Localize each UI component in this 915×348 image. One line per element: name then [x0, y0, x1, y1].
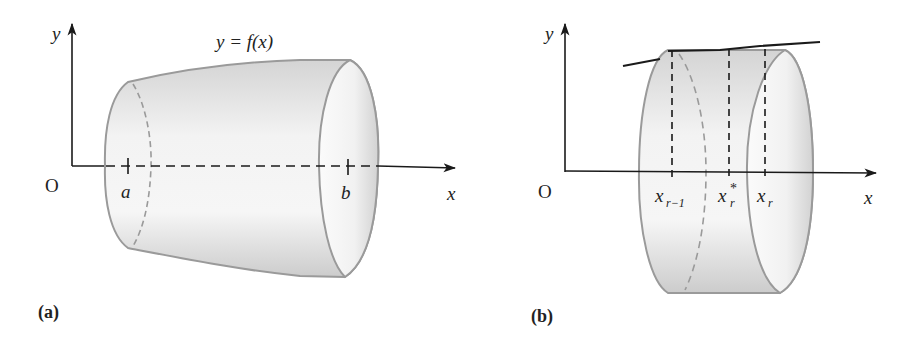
- svg-text:*: *: [730, 181, 737, 196]
- caption-a: (a): [38, 302, 59, 323]
- y-axis-label-a: y: [50, 23, 61, 44]
- caption-b: (b): [531, 306, 553, 327]
- panel-a: y y = f(x) O a b x (a): [38, 23, 456, 323]
- panel-b: y O x x r−1 x * r x r (b): [531, 23, 876, 327]
- x-axis-a-right: [378, 166, 455, 168]
- x-axis-label-a: x: [446, 183, 456, 204]
- y-axis-label-b: y: [543, 23, 554, 44]
- figure-canvas: y y = f(x) O a b x (a) y O x x r−1: [0, 0, 915, 348]
- origin-label-b: O: [538, 181, 552, 202]
- tick-label-a: a: [121, 181, 131, 202]
- svg-text:x: x: [717, 185, 727, 206]
- curve-label: y = f(x): [214, 31, 273, 53]
- svg-text:x: x: [654, 185, 664, 206]
- x-axis-b: [565, 171, 876, 173]
- svg-text:r: r: [730, 196, 735, 210]
- origin-label-a: O: [45, 175, 59, 196]
- tick-label-b: b: [341, 182, 351, 203]
- svg-text:x: x: [756, 185, 766, 206]
- x-axis-label-b: x: [863, 187, 873, 208]
- svg-text:r−1: r−1: [666, 196, 685, 210]
- svg-text:r: r: [768, 196, 773, 210]
